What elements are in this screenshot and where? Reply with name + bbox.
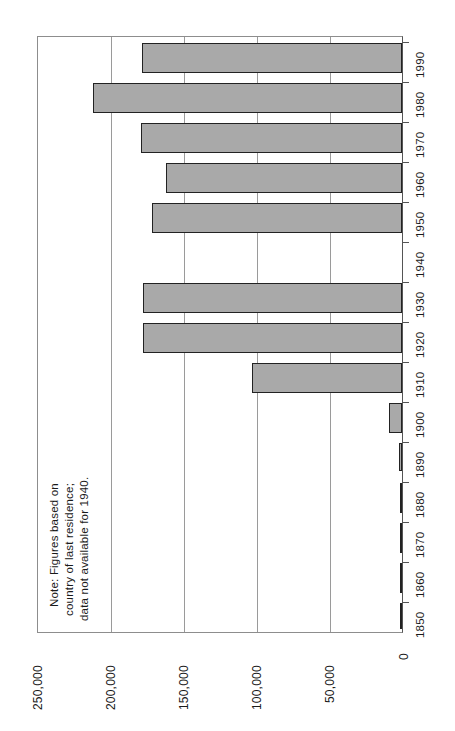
category-tick-1900	[403, 402, 409, 403]
bar-slot-1990	[38, 43, 402, 73]
bar-1970[interactable]	[141, 123, 402, 153]
category-label-1850: 1850	[414, 612, 426, 638]
category-label-1860: 1860	[414, 572, 426, 598]
bar-1950[interactable]	[152, 203, 402, 233]
category-tick-1990	[403, 42, 409, 43]
value-label-150000: 150,000	[177, 665, 191, 710]
bar-slot-1900	[38, 403, 402, 433]
category-label-1910: 1910	[414, 372, 426, 398]
category-tick-1890	[403, 442, 409, 443]
bar-slot-1880	[38, 483, 402, 513]
bar-slot-1950	[38, 203, 402, 233]
bar-slot-1850	[38, 603, 402, 629]
category-tick-1950	[403, 202, 409, 203]
category-tick-1980	[403, 82, 409, 83]
category-tick-1940	[403, 242, 409, 243]
category-tick-1930	[403, 282, 409, 283]
bar-1880[interactable]	[400, 483, 402, 513]
bar-1860[interactable]	[400, 563, 402, 593]
bar-slot-1980	[38, 83, 402, 113]
category-tick-1960	[403, 162, 409, 163]
chart-note-line-2: country of last residence;	[64, 483, 76, 616]
value-label-50000: 50,000	[323, 665, 337, 703]
category-tick-1970	[403, 122, 409, 123]
category-label-1890: 1890	[414, 452, 426, 478]
chart-note-line-1: Note: Figures based on	[49, 483, 61, 607]
category-tick-1880	[403, 482, 409, 483]
bar-1960[interactable]	[166, 163, 402, 193]
category-label-1950: 1950	[414, 212, 426, 238]
category-tick-1850	[403, 602, 409, 603]
chart-note-line-3: data not available for 1940.	[79, 477, 91, 621]
bar-slot-1930	[38, 283, 402, 313]
bar-1870[interactable]	[400, 523, 402, 553]
bar-slot-1860	[38, 563, 402, 593]
category-label-1870: 1870	[414, 532, 426, 558]
bars-layer	[38, 37, 402, 632]
category-label-1980: 1980	[414, 92, 426, 118]
category-label-1940: 1940	[414, 252, 426, 278]
bar-slot-1870	[38, 523, 402, 553]
value-label-0: 0	[397, 653, 411, 660]
bar-slot-1970	[38, 123, 402, 153]
category-tick-1870	[403, 522, 409, 523]
category-label-1930: 1930	[414, 292, 426, 318]
bar-1980[interactable]	[93, 83, 402, 113]
bar-1990[interactable]	[142, 43, 402, 73]
chart-figure: Note: Figures based on country of last r…	[0, 0, 455, 731]
bar-slot-1890	[38, 443, 402, 471]
bar-1850[interactable]	[400, 603, 402, 629]
bar-1930[interactable]	[143, 283, 402, 313]
category-label-1900: 1900	[414, 412, 426, 438]
category-label-1970: 1970	[414, 132, 426, 158]
bar-slot-1920	[38, 323, 402, 353]
value-label-200000: 200,000	[104, 665, 118, 710]
bar-1910[interactable]	[252, 363, 402, 393]
category-label-1990: 1990	[414, 52, 426, 78]
bar-1920[interactable]	[143, 323, 402, 353]
bar-slot-1960	[38, 163, 402, 193]
bar-slot-1910	[38, 363, 402, 393]
bar-1900[interactable]	[389, 403, 402, 433]
category-tick-1920	[403, 322, 409, 323]
category-tick-1910	[403, 362, 409, 363]
category-tick-1860	[403, 562, 409, 563]
plot-area: Note: Figures based on country of last r…	[37, 36, 403, 633]
category-label-1880: 1880	[414, 492, 426, 518]
bar-1890[interactable]	[399, 443, 402, 471]
category-label-1920: 1920	[414, 332, 426, 358]
bar-slot-1940	[38, 243, 402, 273]
value-label-100000: 100,000	[250, 665, 264, 710]
category-label-1960: 1960	[414, 172, 426, 198]
value-label-250000: 250,000	[31, 665, 45, 710]
